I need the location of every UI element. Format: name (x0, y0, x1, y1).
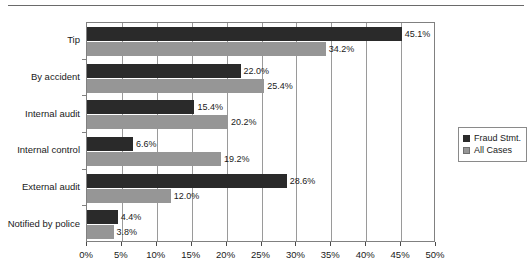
x-axis-tick (295, 242, 296, 246)
bar-value-label: 25.4% (267, 82, 293, 91)
x-axis-tick-label: 20% (216, 250, 235, 260)
bar-value-label: 28.6% (290, 177, 316, 186)
category-label: By accident (0, 72, 80, 82)
x-axis-tick (191, 242, 192, 246)
category-tick (82, 132, 86, 133)
bar-value-label: 3.8% (117, 228, 138, 237)
category-tick (82, 95, 86, 96)
bar-fraud-stmt (87, 210, 118, 224)
bar-all-cases (87, 225, 114, 239)
chart-page: 45.1%34.2%22.0%25.4%15.4%20.2%6.6%19.2%2… (0, 0, 532, 278)
bar-value-label: 20.2% (231, 118, 257, 127)
bar-value-label: 4.4% (121, 213, 142, 222)
category-label: Notified by police (0, 219, 80, 229)
x-axis-tick-label: 25% (251, 250, 270, 260)
legend-item-fraud-stmt[interactable]: Fraud Stmt. (463, 133, 521, 144)
x-axis-tick (330, 242, 331, 246)
x-axis-tick-label: 30% (286, 250, 305, 260)
x-axis-tick (121, 242, 122, 246)
bar-value-label: 45.1% (405, 30, 431, 39)
x-axis-tick (261, 242, 262, 246)
legend-swatch-icon-fraud-stmt (463, 135, 470, 142)
category-tick (82, 205, 86, 206)
bar-group: 22.0%25.4% (87, 64, 434, 93)
x-axis-tick (156, 242, 157, 246)
bar-fraud-stmt (87, 100, 194, 114)
bar-value-label: 22.0% (244, 67, 270, 76)
bar-all-cases (87, 42, 326, 56)
bar-value-label: 6.6% (136, 140, 157, 149)
x-axis-tick (226, 242, 227, 246)
category-label: Tip (0, 35, 80, 45)
plot-area: 45.1%34.2%22.0%25.4%15.4%20.2%6.6%19.2%2… (86, 22, 435, 242)
legend-label-all-cases: All Cases (474, 145, 512, 156)
category-label: Internal control (0, 145, 80, 155)
category-tick (82, 59, 86, 60)
x-axis-tick-label: 5% (114, 250, 128, 260)
bar-value-label: 19.2% (224, 155, 250, 164)
bar-group: 45.1%34.2% (87, 27, 434, 56)
x-axis-tick-label: 10% (146, 250, 165, 260)
legend: Fraud Stmt. All Cases (458, 127, 527, 162)
bar-all-cases (87, 189, 171, 203)
x-axis-tick-label: 50% (425, 250, 444, 260)
bar-value-label: 12.0% (174, 192, 200, 201)
bar-value-label: 34.2% (329, 45, 355, 54)
bar-fraud-stmt (87, 64, 241, 78)
bar-group: 4.4%3.8% (87, 210, 434, 239)
x-axis-tick (86, 242, 87, 246)
legend-swatch-icon-all-cases (463, 147, 470, 154)
legend-label-fraud-stmt: Fraud Stmt. (474, 133, 521, 144)
bar-value-label: 15.4% (197, 103, 223, 112)
bar-fraud-stmt (87, 27, 402, 41)
bar-fraud-stmt (87, 137, 133, 151)
x-axis-tick-label: 45% (391, 250, 410, 260)
bar-group: 15.4%20.2% (87, 100, 434, 129)
x-axis-tick (365, 242, 366, 246)
category-label: Internal audit (0, 109, 80, 119)
bar-fraud-stmt (87, 174, 287, 188)
legend-item-all-cases[interactable]: All Cases (463, 145, 521, 156)
x-axis-tick-label: 40% (356, 250, 375, 260)
x-axis-tick-label: 15% (181, 250, 200, 260)
x-axis-tick-label: 0% (79, 250, 93, 260)
bar-all-cases (87, 115, 228, 129)
bar-group: 6.6%19.2% (87, 137, 434, 166)
bar-all-cases (87, 152, 221, 166)
bar-group: 28.6%12.0% (87, 174, 434, 203)
category-label: External audit (0, 182, 80, 192)
x-axis-tick-label: 35% (321, 250, 340, 260)
x-axis-tick (400, 242, 401, 246)
bar-all-cases (87, 79, 264, 93)
category-tick (82, 169, 86, 170)
x-axis-tick (435, 242, 436, 246)
top-divider-rule (8, 5, 524, 6)
